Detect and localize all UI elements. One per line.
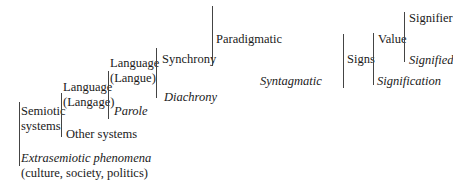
extrasemiotic-line1: Extrasemiotic phenomena <box>21 151 151 166</box>
semiotic-line1: Semiotic <box>21 104 59 119</box>
bracket-line-langage <box>108 71 109 119</box>
bracket-line-syntagmatic <box>343 34 344 88</box>
bracket-line-root <box>19 102 20 166</box>
node-other-systems: Other systems <box>66 127 137 142</box>
bracket-line-synchrony <box>212 6 213 66</box>
extrasemiotic-line2: (culture, society, politics) <box>21 166 151 181</box>
bracket-line-signs <box>373 33 374 85</box>
langue-line1: Language <box>110 56 154 71</box>
node-synchrony: Synchrony <box>162 52 216 67</box>
node-diachrony: Diachrony <box>164 90 217 105</box>
node-language-langue: Language (Langue) <box>110 56 154 86</box>
node-paradigmatic: Paradigmatic <box>216 32 282 47</box>
node-extrasemiotic: Extrasemiotic phenomena (culture, societ… <box>21 151 151 181</box>
node-semiotic-systems: Semiotic systems <box>21 104 59 134</box>
node-signs: Signs <box>347 52 375 67</box>
bracket-line-value <box>404 12 405 62</box>
semiotic-line2: systems <box>21 119 59 134</box>
node-parole: Parole <box>114 104 148 119</box>
node-signifier: Signifier <box>409 11 453 26</box>
node-signification: Signification <box>377 74 441 89</box>
node-value: Value <box>378 32 406 47</box>
bracket-line-semiotic <box>61 93 62 137</box>
langue-line2: (Langue) <box>110 71 154 86</box>
node-signified: Signified <box>409 53 453 68</box>
langage-line1: Language <box>63 80 107 95</box>
bracket-line-langue <box>156 48 157 98</box>
node-language-langage: Language (Langage) <box>63 80 107 110</box>
langage-line2: (Langage) <box>63 95 107 110</box>
node-syntagmatic: Syntagmatic <box>260 74 322 89</box>
